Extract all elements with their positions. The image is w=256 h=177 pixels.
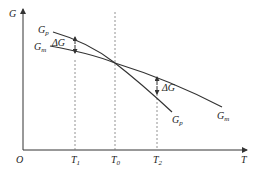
gm-label-right: Gm [217, 110, 229, 123]
origin-label: O [16, 154, 23, 165]
tick-label-t2: T2 [153, 154, 163, 167]
tick-label-t1: T1 [71, 154, 80, 167]
delta-g-label-t1: ΔG [51, 37, 65, 48]
gp-curve [53, 32, 172, 112]
gibbs-energy-diagram: G T O T1 T0 T2 Gp Gm Gp Gm ΔG ΔG [0, 0, 256, 177]
gp-label-left: Gp [38, 24, 49, 37]
tick-label-t0: T0 [111, 154, 121, 167]
x-axis-label: T [241, 154, 248, 165]
delta-g-label-t2: ΔG [161, 82, 175, 93]
y-axis-label: G [9, 8, 16, 19]
gm-label-left: Gm [34, 41, 46, 54]
gp-label-right: Gp [172, 114, 183, 127]
gm-curve [50, 46, 222, 107]
